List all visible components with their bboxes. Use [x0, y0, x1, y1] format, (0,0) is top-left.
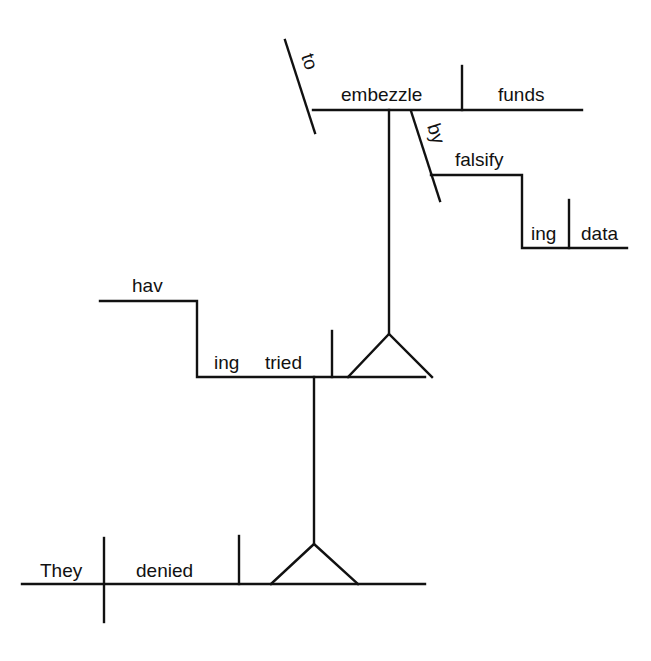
- word-by: by: [423, 121, 449, 147]
- word-funds: funds: [498, 84, 544, 105]
- word-hav: hav: [132, 275, 163, 296]
- word-embezzle: embezzle: [341, 84, 422, 105]
- word-tried: tried: [265, 352, 302, 373]
- sentence-diagram: They denied hav ing tried to embezzle fu…: [0, 0, 651, 661]
- word-ing: ing: [214, 352, 239, 373]
- gerund-object-pedestal: [348, 334, 432, 377]
- word-falsify: falsify: [455, 149, 504, 170]
- gerund-step-line: [100, 301, 425, 377]
- word-verb: denied: [136, 560, 193, 581]
- word-ing-2: ing: [531, 223, 556, 244]
- word-to: to: [297, 51, 322, 73]
- word-subject: They: [40, 560, 83, 581]
- word-data: data: [581, 223, 618, 244]
- object-pedestal: [271, 544, 358, 584]
